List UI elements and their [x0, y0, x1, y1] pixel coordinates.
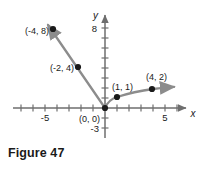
x-tick-label-neg5: -5: [41, 112, 49, 123]
coordinate-plane: (-4, 8) (-2, 4) (0, 0) (1, 1) (4, 2) -5 …: [0, 0, 207, 143]
point-label-4-2: (4, 2): [146, 72, 167, 82]
point-labels-group: (-4, 8) (-2, 4) (0, 0) (1, 1) (4, 2): [25, 26, 167, 124]
point-marker: [149, 86, 155, 92]
point-label-neg4-8: (-4, 8): [25, 26, 49, 36]
y-axis-label: y: [92, 10, 99, 21]
x-axis-label: x: [190, 108, 197, 119]
figure-container: (-4, 8) (-2, 4) (0, 0) (1, 1) (4, 2) -5 …: [0, 0, 207, 170]
point-marker: [114, 94, 120, 100]
y-tick-label-8: 8: [92, 23, 97, 34]
point-label-neg2-4: (-2, 4): [50, 63, 74, 73]
x-tick-label-5: 5: [162, 112, 167, 123]
figure-caption: Figure 47: [8, 146, 64, 160]
graph-svg: (-4, 8) (-2, 4) (0, 0) (1, 1) (4, 2) -5 …: [0, 0, 207, 143]
point-marker: [75, 64, 81, 70]
y-tick-label-neg3: -3: [91, 123, 99, 134]
point-marker: [102, 105, 108, 111]
point-label-1-1: (1, 1): [112, 82, 133, 92]
point-marker: [50, 26, 56, 32]
